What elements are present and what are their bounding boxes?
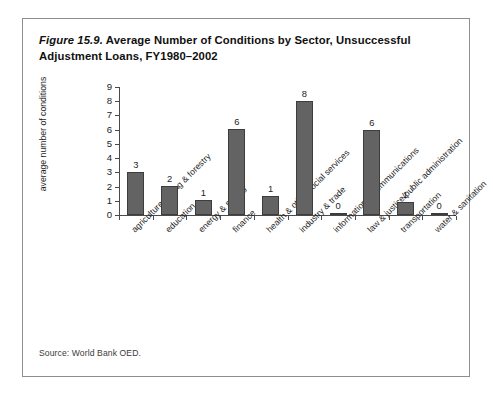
x-tick-mark — [355, 216, 356, 220]
bar-value-label: 1 — [390, 189, 420, 200]
source-note: Source: World Bank OED. — [39, 348, 141, 358]
bar-value-label: 1 — [188, 187, 218, 198]
bar — [161, 186, 178, 215]
bar — [195, 200, 212, 215]
x-tick-mark — [220, 216, 221, 220]
bar-value-label: 3 — [121, 159, 151, 170]
bar-chart: average number of conditions 01234567893… — [23, 19, 471, 378]
bar — [127, 172, 144, 215]
bar — [363, 130, 380, 215]
y-tick-mark — [115, 172, 119, 173]
x-tick-mark — [153, 216, 154, 220]
y-tick-label: 4 — [96, 153, 112, 163]
y-axis-title: average number of conditions — [38, 64, 48, 204]
bar-value-label: 1 — [256, 183, 286, 194]
y-tick-mark — [115, 130, 119, 131]
y-tick-mark — [115, 201, 119, 202]
y-tick-mark — [115, 187, 119, 188]
y-tick-label: 5 — [96, 139, 112, 149]
y-tick-label: 8 — [96, 96, 112, 106]
bar — [262, 196, 279, 215]
y-tick-label: 3 — [96, 167, 112, 177]
y-tick-mark — [115, 101, 119, 102]
y-tick-mark — [115, 144, 119, 145]
y-tick-mark — [115, 115, 119, 116]
x-tick-mark — [422, 216, 423, 220]
y-tick-label: 9 — [96, 82, 112, 92]
bar-value-label: 8 — [289, 88, 319, 99]
x-tick-mark — [186, 216, 187, 220]
y-tick-label: 6 — [96, 125, 112, 135]
y-axis-line — [119, 87, 120, 216]
bar-value-label: 6 — [357, 117, 387, 128]
y-tick-mark — [115, 87, 119, 88]
x-tick-mark — [321, 216, 322, 220]
y-tick-label: 2 — [96, 182, 112, 192]
figure-container: Figure 15.9. Average Number of Condition… — [22, 18, 470, 377]
x-tick-mark — [389, 216, 390, 220]
y-tick-mark — [115, 158, 119, 159]
y-tick-label: 0 — [96, 210, 112, 220]
y-tick-label: 7 — [96, 110, 112, 120]
bar — [296, 101, 313, 215]
y-tick-label: 1 — [96, 196, 112, 206]
bar — [228, 129, 245, 215]
x-tick-mark — [119, 216, 120, 220]
x-tick-mark — [456, 216, 457, 220]
x-tick-mark — [254, 216, 255, 220]
bar-value-label: 6 — [222, 116, 252, 127]
bar-value-label: 2 — [155, 173, 185, 184]
x-tick-mark — [288, 216, 289, 220]
